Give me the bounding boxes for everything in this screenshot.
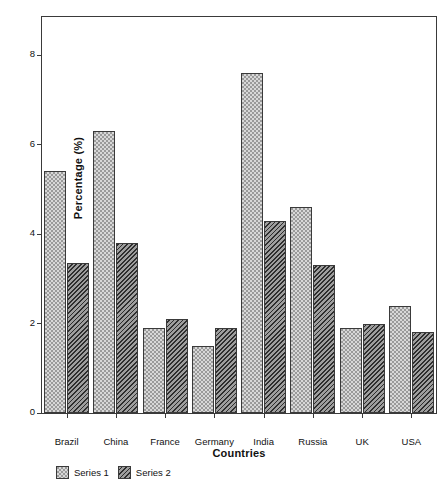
- x-tick-mark-brazil: [67, 413, 68, 418]
- bar-brazil-series1: [44, 171, 66, 413]
- bar-france-series1: [143, 328, 165, 413]
- bar-brazil-series2: [67, 263, 89, 413]
- bar-usa-series2: [412, 332, 434, 413]
- bar-china-series1: [93, 131, 115, 413]
- legend-item-1[interactable]: Series 1: [56, 466, 109, 479]
- x-tick-mark-france: [165, 413, 166, 418]
- bar-india-series2: [264, 221, 286, 413]
- x-axis-title: Countries: [41, 447, 437, 459]
- x-tick-mark-usa: [411, 413, 412, 418]
- y-tick-label: 2: [22, 317, 35, 328]
- bar-russia-series1: [290, 207, 312, 413]
- bar-germany-series2: [215, 328, 237, 413]
- bar-india-series1: [241, 73, 263, 413]
- y-axis-title: Percentage (%): [72, 98, 84, 258]
- y-tick-label: 4: [22, 227, 35, 238]
- legend-item-2[interactable]: Series 2: [118, 466, 171, 479]
- y-tick-label: 6: [22, 138, 35, 149]
- bar-uk-series1: [340, 328, 362, 413]
- bar-russia-series2: [313, 265, 335, 413]
- plot-area: Percentage (%) 02468 BrazilChinaFranceGe…: [41, 16, 437, 414]
- y-tick-mark: [37, 55, 42, 56]
- legend-swatch-icon-2: [118, 466, 131, 479]
- y-tick-mark: [37, 413, 42, 414]
- bar-uk-series2: [363, 324, 385, 413]
- legend-label-1: Series 1: [74, 467, 109, 478]
- x-tick-mark-china: [116, 413, 117, 418]
- bar-usa-series1: [389, 306, 411, 413]
- y-tick-mark: [37, 144, 42, 145]
- x-tick-mark-uk: [362, 413, 363, 418]
- legend-label-2: Series 2: [136, 467, 171, 478]
- x-tick-mark-germany: [214, 413, 215, 418]
- x-tick-mark-india: [264, 413, 265, 418]
- bar-germany-series1: [192, 346, 214, 413]
- y-tick-label: 8: [22, 48, 35, 59]
- legend-swatch-icon-1: [56, 466, 69, 479]
- y-tick-label: 0: [22, 406, 35, 417]
- x-tick-mark-russia: [313, 413, 314, 418]
- chart-legend: Series 1Series 2: [56, 466, 171, 479]
- bar-france-series2: [166, 319, 188, 413]
- bar-china-series2: [116, 243, 138, 413]
- x-tick-label-usa: USA: [371, 436, 446, 447]
- y-tick-mark: [37, 323, 42, 324]
- y-tick-mark: [37, 234, 42, 235]
